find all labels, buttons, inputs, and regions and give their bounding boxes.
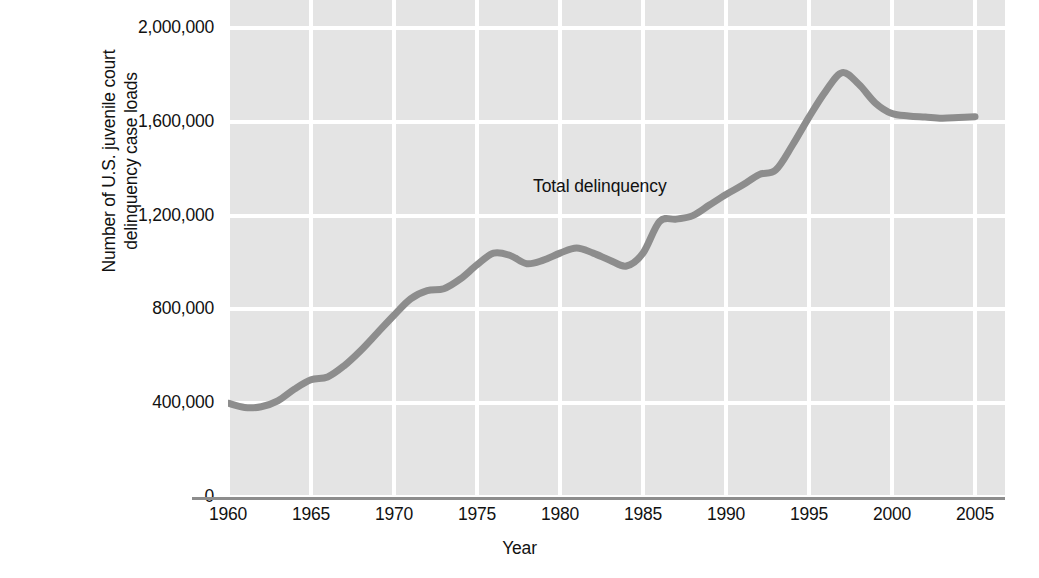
y-axis-title-line-2: delinquency case loads: [120, 72, 142, 250]
chart-figure: Number of U.S. juvenile court delinquenc…: [0, 0, 1039, 578]
x-axis-tick-label: 1995: [769, 504, 849, 525]
y-axis-tick-label: 2,000,000: [62, 17, 214, 38]
y-axis-tick-label: 1,200,000: [62, 205, 214, 226]
series-total-delinquency: [228, 0, 1005, 497]
plot-area: [228, 0, 1005, 497]
y-axis-title-line-1: Number of U.S. juvenile court: [98, 50, 120, 273]
x-axis-tick-label: 1990: [686, 504, 766, 525]
x-axis-tick-labels: 1960196519701975198019851990199520002005: [0, 504, 1039, 534]
y-axis-tick-label: 800,000: [62, 298, 214, 319]
x-axis-line: [192, 497, 1005, 500]
x-axis-tick-label: 1985: [603, 504, 683, 525]
x-axis-tick-label: 2005: [935, 504, 1015, 525]
series-line-path: [228, 72, 975, 407]
x-axis-tick-label: 1965: [271, 504, 351, 525]
x-axis-tick-label: 1975: [437, 504, 517, 525]
y-axis-title: Number of U.S. juvenile court delinquenc…: [92, 0, 148, 371]
y-axis-tick-label: 1,600,000: [62, 111, 214, 132]
series-annotation-total-delinquency: Total delinquency: [533, 176, 667, 197]
x-axis-tick-label: 1970: [354, 504, 434, 525]
y-axis-tick-label: 400,000: [62, 392, 214, 413]
x-axis-tick-label: 1960: [188, 504, 268, 525]
x-axis-tick-label: 1980: [520, 504, 600, 525]
x-axis-tick-label: 2000: [852, 504, 932, 525]
x-axis-title: Year: [0, 538, 1039, 559]
